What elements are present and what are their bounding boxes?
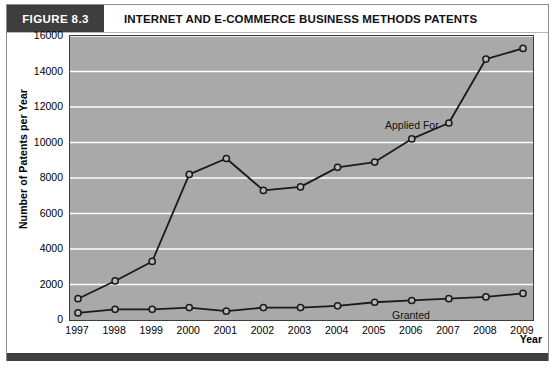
y-axis-title: Number of Patents per Year xyxy=(17,44,29,274)
data-point xyxy=(149,306,155,312)
data-point xyxy=(112,306,118,312)
data-point xyxy=(446,296,452,302)
data-point xyxy=(112,278,118,284)
data-point xyxy=(186,171,192,177)
x-axis-tick-label: 2000 xyxy=(168,325,208,336)
y-axis-tick-label: 0 xyxy=(17,314,63,324)
y-axis-tick-label: 14000 xyxy=(17,66,63,76)
figure-frame: FIGURE 8.3 INTERNET AND E-COMMERCE BUSIN… xyxy=(6,4,549,361)
x-axis-tick-label: 2007 xyxy=(428,325,468,336)
y-axis-tick-label: 8000 xyxy=(17,172,63,182)
data-point xyxy=(297,184,303,190)
figure-header: FIGURE 8.3 INTERNET AND E-COMMERCE BUSIN… xyxy=(7,5,548,32)
series-applied-for xyxy=(75,45,526,301)
data-point xyxy=(223,155,229,161)
data-point xyxy=(483,294,489,300)
series-line xyxy=(78,48,523,298)
data-point xyxy=(409,297,415,303)
y-axis-tick-label: 10000 xyxy=(17,137,63,147)
figure-number-badge: FIGURE 8.3 xyxy=(7,5,104,32)
data-point xyxy=(483,56,489,62)
x-axis-tick-label: 1998 xyxy=(94,325,134,336)
series-label-applied-for: Applied For xyxy=(385,119,439,131)
x-axis-tick-label: 2002 xyxy=(242,325,282,336)
data-point xyxy=(372,159,378,165)
data-point xyxy=(223,308,229,314)
data-point xyxy=(186,304,192,310)
data-point xyxy=(75,296,81,302)
data-point xyxy=(409,136,415,142)
x-axis-tick-label: 2005 xyxy=(354,325,394,336)
series-label-granted: Granted xyxy=(392,309,430,321)
x-axis-tick-label: 2004 xyxy=(317,325,357,336)
data-point xyxy=(297,304,303,310)
data-point xyxy=(334,164,340,170)
data-point xyxy=(372,299,378,305)
gridlines xyxy=(70,36,533,285)
y-axis-tick-label: 16000 xyxy=(17,30,63,40)
x-axis-tick-label: 2001 xyxy=(205,325,245,336)
data-point xyxy=(520,290,526,296)
x-axis-tick-label: 2008 xyxy=(465,325,505,336)
x-axis-tick-label: 2006 xyxy=(391,325,431,336)
y-axis-tick-label: 2000 xyxy=(17,279,63,289)
y-axis-tick-label: 12000 xyxy=(17,101,63,111)
y-axis-tick-label: 6000 xyxy=(17,208,63,218)
data-point xyxy=(520,45,526,51)
figure-title: INTERNET AND E-COMMERCE BUSINESS METHODS… xyxy=(104,5,548,32)
data-point xyxy=(334,303,340,309)
series-granted xyxy=(75,290,526,316)
data-point xyxy=(75,310,81,316)
series-layer xyxy=(75,45,526,316)
x-axis-tick-label: 1997 xyxy=(57,325,97,336)
plot-area xyxy=(69,35,534,321)
y-axis-tick-label: 4000 xyxy=(17,243,63,253)
data-point xyxy=(149,258,155,264)
plot-svg xyxy=(70,36,533,320)
data-point xyxy=(260,187,266,193)
chart-body: Number of Patents per Year 1600014000120… xyxy=(7,33,548,353)
x-axis-tick-label: 1999 xyxy=(131,325,171,336)
figure-footer-bar xyxy=(7,353,548,361)
data-point xyxy=(260,304,266,310)
x-axis-tick-label: 2003 xyxy=(280,325,320,336)
data-point xyxy=(446,120,452,126)
x-axis-title: Year xyxy=(520,333,542,345)
